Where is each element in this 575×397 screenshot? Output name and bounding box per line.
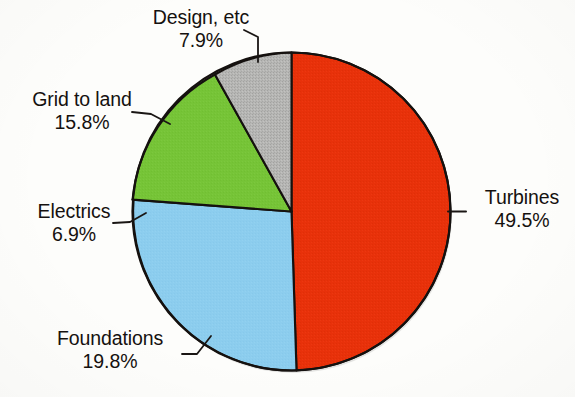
slice-label-electrics: Electrics 6.9%	[6, 200, 142, 245]
slice-label-design-etc-value: 7.9%	[118, 29, 284, 52]
slice-label-turbines-value: 49.5%	[470, 209, 574, 232]
slice-label-turbines: Turbines 49.5%	[470, 186, 574, 231]
slice-label-grid-to-land-name: Grid to land	[6, 88, 158, 111]
slice-label-design-etc-name: Design, etc	[118, 6, 284, 29]
slice-label-foundations-value: 19.8%	[24, 350, 196, 373]
pie-chart-figure: Design, etc 7.9% Grid to land 15.8% Elec…	[0, 0, 575, 397]
slice-label-grid-to-land: Grid to land 15.8%	[6, 88, 158, 133]
slice-label-electrics-name: Electrics	[6, 200, 142, 223]
slice-label-electrics-value: 6.9%	[6, 223, 142, 246]
slice-label-foundations: Foundations 19.8%	[24, 327, 196, 372]
slice-label-turbines-name: Turbines	[470, 186, 574, 209]
slice-label-grid-to-land-value: 15.8%	[6, 111, 158, 134]
pie-slice-turbines[interactable]	[292, 53, 451, 371]
slice-label-design-etc: Design, etc 7.9%	[118, 6, 284, 51]
slice-label-foundations-name: Foundations	[24, 327, 196, 350]
